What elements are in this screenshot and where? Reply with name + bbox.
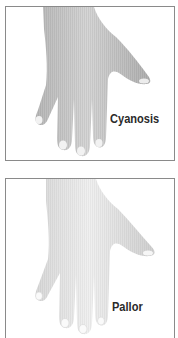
fingernail-icon bbox=[96, 139, 103, 147]
pallor-panel: Pallor bbox=[5, 178, 175, 338]
pallor-label: Pallor bbox=[112, 299, 143, 314]
thumbnail-icon bbox=[143, 251, 153, 256]
hand-cyanosis-icon bbox=[6, 7, 175, 161]
fingernail-icon bbox=[98, 317, 105, 325]
fingernail-icon bbox=[36, 292, 43, 300]
cyanosis-label: Cyanosis bbox=[110, 111, 159, 126]
hand-pallor-icon bbox=[6, 179, 175, 338]
thumbnail-icon bbox=[139, 79, 149, 84]
fingernail-icon bbox=[59, 141, 67, 150]
fingernail-icon bbox=[61, 319, 69, 328]
fingernail-icon bbox=[77, 147, 85, 156]
fingernail-icon bbox=[79, 325, 87, 334]
cyanosis-panel: Cyanosis bbox=[5, 6, 175, 161]
fingernail-icon bbox=[36, 116, 43, 124]
